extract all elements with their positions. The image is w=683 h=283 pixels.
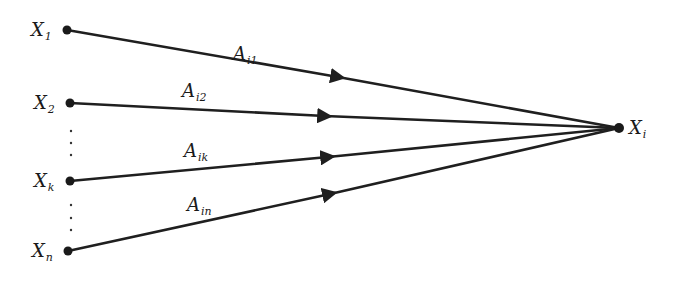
edge-x1-to-xi-tail [338, 77, 619, 128]
edge-xn-to-xi-tail [330, 128, 619, 194]
edge-xk-to-xi-tail [328, 128, 619, 157]
edge-label-i2: Ai2 [180, 80, 207, 104]
ellipsis-dot [70, 204, 72, 206]
node-label-x1: X1 [29, 19, 52, 43]
ellipsis-dot [70, 154, 72, 156]
edges [67, 30, 619, 251]
node-label-xn: Xn [30, 240, 53, 264]
node-x1 [63, 26, 72, 35]
edge-label-in: Ain [185, 194, 212, 218]
edge-label-ik: Aik [182, 140, 209, 164]
ellipsis-dot [70, 217, 72, 219]
edge-x1-to-xi [67, 30, 338, 77]
ellipsis-dot [70, 229, 72, 231]
edge-label-i1: Ai1 [231, 43, 258, 67]
edge-x2-to-xi-tail [325, 116, 619, 128]
ellipsis-dot [70, 142, 72, 144]
node-xn [64, 247, 73, 256]
nodes [63, 26, 625, 256]
graph-diagram: X1Ai1X2Ai2XkAikXnAinXi [0, 0, 683, 283]
labels: X1Ai1X2Ai2XkAikXnAinXi [29, 19, 646, 264]
ellipsis-dot [70, 130, 72, 132]
node-xk [66, 177, 75, 186]
edge-x2-to-xi [70, 103, 325, 116]
node-x2 [66, 99, 75, 108]
node-label-x2: X2 [32, 92, 55, 116]
node-label-xi: Xi [627, 117, 646, 141]
node-label-xk: Xk [32, 170, 55, 194]
node-xi [614, 123, 624, 133]
